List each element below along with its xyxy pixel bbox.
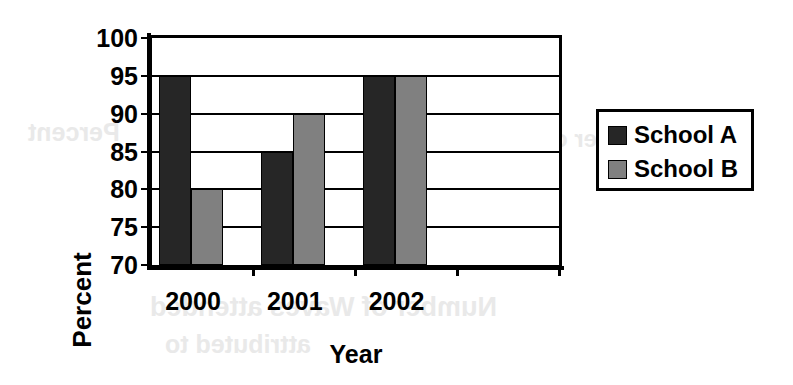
gray-square-swatch [608, 160, 627, 179]
bar-school-b-2001 [293, 114, 325, 265]
bar-school-b-2000 [191, 189, 223, 265]
plot-area: 707580859095100200020012002 [149, 35, 562, 268]
bar-school-b-2002 [395, 76, 427, 265]
x-axis-tick-label: 2002 [369, 287, 425, 316]
y-axis-tick-label: 75 [110, 215, 138, 240]
bar-school-a-2002 [363, 76, 395, 265]
y-axis-title: Percent [67, 252, 98, 347]
legend-item-school-a[interactable]: School A [608, 118, 751, 152]
chart-legend: School ASchool B [596, 109, 754, 191]
dark-square-swatch [608, 126, 627, 145]
bar-chart-figure: Percent 707580859095100200020012002 Year… [0, 0, 793, 385]
y-axis-spine [147, 33, 151, 270]
y-axis-tick-label: 100 [96, 26, 138, 51]
x-axis-title: Year [330, 340, 383, 369]
y-axis-tick-label: 90 [110, 101, 138, 126]
x-axis-spine [147, 266, 564, 270]
y-axis-tick-label: 70 [110, 253, 138, 278]
gridline [152, 113, 559, 115]
legend-item-label: School B [634, 157, 738, 181]
y-axis-tick-label: 85 [110, 139, 138, 164]
gridline [152, 75, 559, 77]
bar-school-a-2000 [159, 76, 191, 265]
gridline [152, 151, 559, 153]
bar-school-a-2001 [261, 152, 293, 266]
legend-item-school-b[interactable]: School B [608, 152, 751, 186]
legend-item-label: School A [634, 123, 737, 147]
y-axis-tick-label: 95 [110, 63, 138, 88]
y-axis-tick-label: 80 [110, 177, 138, 202]
x-axis-tick-label: 2000 [165, 287, 221, 316]
x-axis-tick-label: 2001 [267, 287, 323, 316]
